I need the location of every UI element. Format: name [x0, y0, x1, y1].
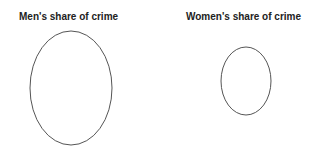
diagram-canvas	[0, 0, 319, 149]
mens-share-ellipse	[30, 31, 112, 145]
womens-share-ellipse	[221, 47, 271, 115]
